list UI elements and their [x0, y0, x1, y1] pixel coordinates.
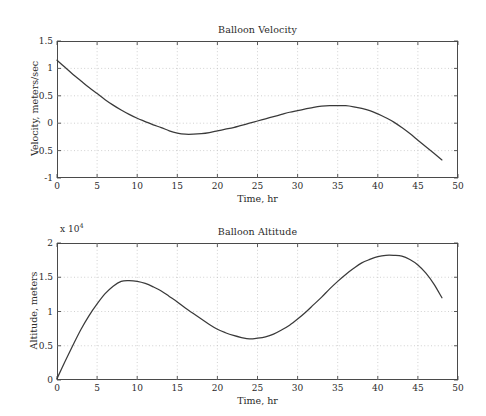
velocity-axes [57, 41, 458, 178]
y-tick-label: 1 [21, 307, 53, 317]
x-tick-label: 45 [412, 181, 423, 191]
altitude-title: Balloon Altitude [57, 226, 458, 237]
x-tick-label: 10 [131, 181, 142, 191]
x-tick-label: 0 [54, 181, 60, 191]
y-tick-label: 0.5 [21, 341, 53, 351]
x-tick-label: 20 [212, 181, 223, 191]
x-tick-label: 25 [252, 383, 263, 393]
y-tick-label: -0.5 [21, 146, 53, 156]
y-tick-label: 0 [21, 375, 53, 385]
x-tick-label: 15 [172, 383, 183, 393]
x-tick-label: 30 [292, 383, 303, 393]
y-tick-label: 0 [21, 118, 53, 128]
y-tick-label: 0.5 [21, 91, 53, 101]
x-tick-label: 20 [212, 383, 223, 393]
altitude-exponent-power: 4 [79, 222, 83, 230]
velocity-title: Balloon Velocity [57, 24, 458, 35]
x-tick-label: 35 [332, 181, 343, 191]
y-tick-label: 1.5 [21, 272, 53, 282]
data-series-line [57, 60, 442, 160]
velocity-y-axis-label: Velocity, meters/sec [29, 39, 40, 179]
altitude-x-axis-label: Time, hr [57, 395, 458, 406]
altitude-exponent-base: x 10 [60, 224, 79, 234]
x-tick-label: 45 [412, 383, 423, 393]
x-tick-label: 50 [452, 181, 463, 191]
x-tick-label: 0 [54, 383, 60, 393]
altitude-y-axis-exponent: x 104 [60, 224, 84, 234]
x-tick-label: 40 [372, 383, 383, 393]
altitude-plot-svg [57, 243, 458, 380]
x-tick-label: 30 [292, 181, 303, 191]
data-series-line [57, 255, 442, 378]
x-tick-label: 10 [131, 383, 142, 393]
figure-canvas: Balloon Velocity Time, hr Velocity, mete… [0, 0, 486, 416]
x-tick-label: 15 [172, 181, 183, 191]
velocity-plot-svg [57, 41, 458, 178]
x-tick-label: 35 [332, 383, 343, 393]
x-tick-label: 40 [372, 181, 383, 191]
y-tick-label: 1.5 [21, 36, 53, 46]
x-tick-label: 5 [94, 383, 100, 393]
x-tick-label: 50 [452, 383, 463, 393]
y-tick-label: 2 [21, 238, 53, 248]
y-tick-label: 1 [21, 63, 53, 73]
altitude-axes [57, 243, 458, 380]
x-tick-label: 25 [252, 181, 263, 191]
x-tick-label: 5 [94, 181, 100, 191]
y-tick-label: -1 [21, 173, 53, 183]
velocity-x-axis-label: Time, hr [57, 193, 458, 204]
